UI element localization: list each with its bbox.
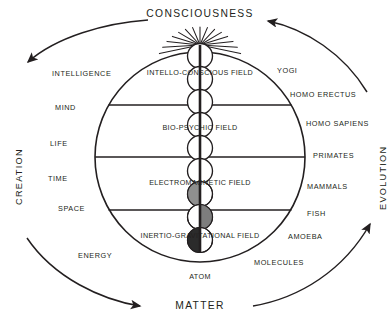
left-label-energy: ENERGY [78, 251, 112, 260]
field-label-bio-psychic: BIO-PSYCHIC FIELD [162, 123, 237, 132]
right-label-primates: PRIMATES [313, 151, 354, 160]
atom-label: ATOM [189, 272, 211, 281]
creation-upper-arc [28, 20, 148, 62]
left-label-time: TIME [48, 174, 68, 183]
left-label-space: SPACE [58, 204, 85, 213]
field-label-electromagnetic: ELECTROMAGNETIC FIELD [149, 178, 251, 187]
axis-label-creation: CREATION [14, 148, 24, 205]
pole-bottom-label: MATTER [175, 300, 224, 311]
right-label-amoeba: AMOEBA [288, 232, 323, 241]
right-label-homo-sapiens: HOMO SAPIENS [306, 119, 369, 128]
left-label-life: LIFE [50, 139, 68, 148]
creation-lower-arc [27, 238, 140, 306]
right-label-homo-erectus: HOMO ERECTUS [290, 90, 356, 99]
right-label-yogi: YOGI [277, 66, 297, 75]
diagram-canvas: CONSCIOUSNESS MATTER CREATION EVOLUTION … [0, 0, 391, 325]
right-label-molecules: MOLECULES [254, 258, 304, 267]
right-label-mammals: MAMMALS [307, 182, 348, 191]
left-label-intelligence: INTELLIGENCE [52, 69, 111, 78]
axis-label-evolution: EVOLUTION [378, 146, 388, 210]
field-label-inertio-gravitational: INERTIO-GRAVITATIONAL FIELD [141, 231, 260, 240]
evolution-upper-arc [268, 21, 367, 92]
right-label-fish: FISH [307, 209, 326, 218]
field-label-intello-conscious: INTELLO-CONSCIOUS FIELD [147, 68, 253, 77]
pole-top-label: CONSCIOUSNESS [146, 8, 253, 19]
left-label-mind: MIND [55, 103, 76, 112]
